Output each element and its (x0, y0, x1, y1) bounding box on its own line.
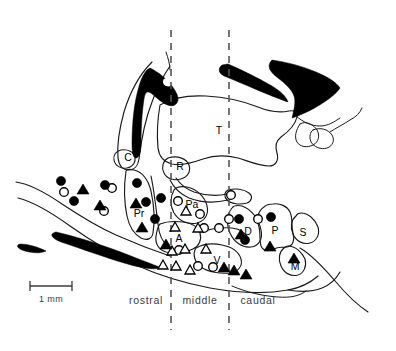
open-circle-marker (194, 262, 203, 271)
filled-circle-marker (69, 196, 78, 205)
region-label-r: R (176, 160, 184, 172)
region-label-s: S (299, 226, 306, 238)
black-wedge-dorsal-right (269, 60, 340, 118)
region-label-pa: Pa (186, 198, 199, 210)
region-label-t: T (216, 124, 223, 136)
filled-circle-marker (253, 79, 262, 88)
brainstem-map-figure: C T R Pr Pa A V D P S M 1 mm rostral mid… (0, 0, 396, 351)
open-circle-marker (196, 210, 205, 219)
region-label-d: D (244, 225, 252, 237)
open-circle-marker (60, 188, 69, 197)
outline-dorsal-tract-upper (296, 116, 340, 126)
filled-triangle-marker (264, 241, 276, 251)
filled-triangle-marker (136, 222, 148, 232)
filled-circle-marker (156, 193, 165, 202)
filled-circle-marker (266, 212, 275, 221)
filled-circle-marker (234, 214, 243, 223)
open-circle-marker (227, 191, 236, 200)
filled-triangle-marker (77, 184, 89, 194)
open-triangle-marker (158, 260, 168, 269)
filled-circle-marker (150, 214, 159, 223)
region-label-a: A (175, 232, 182, 244)
outline-dorsal-tract-right (330, 108, 362, 132)
filled-circle-marker (100, 180, 109, 189)
black-tract-ventral-tip (18, 244, 46, 253)
filled-triangle-marker (240, 269, 252, 279)
section-dividers (171, 30, 229, 330)
open-circle-marker (225, 215, 234, 224)
axis-label-middle: middle (182, 294, 217, 306)
scale-bar: 1 mm (30, 281, 72, 304)
open-circle-marker (215, 224, 224, 233)
axis-label-caudal: caudal (240, 294, 275, 306)
outline-region-t (157, 96, 297, 166)
black-tract-ventral (52, 232, 162, 269)
region-label-p: P (271, 224, 278, 236)
region-label-pr: Pr (134, 207, 145, 219)
open-triangle-marker (171, 261, 181, 270)
open-circle-marker (254, 215, 263, 224)
filled-circle-marker (141, 197, 150, 206)
figure-canvas: C T R Pr Pa A V D P S M 1 mm rostral mid… (0, 0, 396, 351)
axis-label-rostral: rostral (129, 294, 163, 306)
region-label-m: M (291, 260, 300, 272)
scale-bar-label: 1 mm (39, 294, 63, 304)
filled-circle-marker (56, 176, 65, 185)
section-axis-labels: rostral middle caudal (129, 294, 276, 306)
outline-dorsal-tract-loop (296, 123, 319, 147)
open-circle-marker (174, 197, 183, 206)
filled-triangle-marker (94, 200, 106, 210)
region-label-c: C (124, 151, 132, 163)
outline-upper-whisker (166, 52, 170, 70)
region-label-v: V (213, 254, 220, 266)
filled-circle-marker (132, 178, 141, 187)
